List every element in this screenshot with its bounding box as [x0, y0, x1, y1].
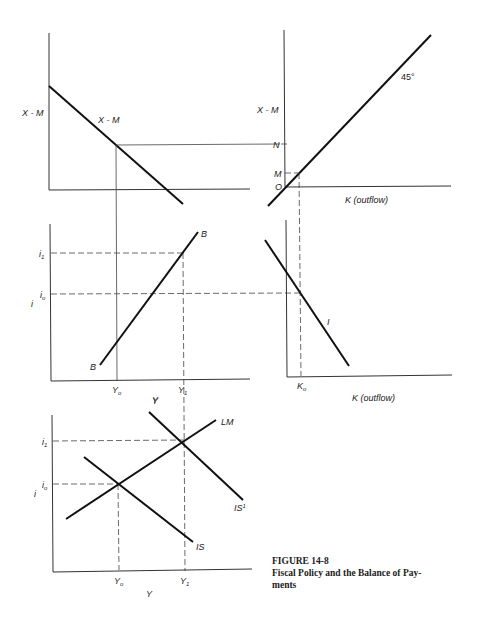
panel-trade-balance: X - M X - M: [21, 33, 280, 381]
guide-Y1: [183, 253, 185, 571]
guide-vertical-Yo: [116, 145, 117, 381]
x-axis-label: Y: [146, 589, 153, 599]
x-axis: [53, 569, 252, 572]
x-axis: [51, 379, 250, 381]
x-axis: [285, 186, 451, 187]
top-y-label: Y: [152, 395, 159, 405]
y-axis: [52, 415, 53, 572]
y-axis-label: X - M: [21, 108, 44, 118]
x-axis-label: K (outflow): [352, 393, 395, 403]
x-axis-label: K (outflow): [345, 195, 388, 205]
y-axis: [50, 224, 51, 381]
tick-Y1-label: Y1: [180, 576, 189, 587]
figure-title-continued: ments: [272, 579, 472, 591]
tick-M-label: M: [274, 169, 282, 179]
forty-five-degree-line: [268, 35, 431, 206]
is-label: IS: [196, 542, 205, 552]
capital-flow-curve: [265, 240, 349, 366]
guide-Yo: [118, 484, 119, 570]
curve-label-top: B: [201, 229, 207, 239]
figure-title: Fiscal Policy and the Balance of Pay-: [272, 567, 472, 579]
guide-Ko-vertical: [299, 173, 301, 376]
is-curve: [84, 457, 193, 542]
fiscal-policy-diagram: X - M X - M 45° X - M N M O K (outflow) …: [0, 0, 478, 620]
tick-Yo-label: Yo: [112, 385, 122, 396]
angle-label: 45°: [401, 72, 415, 82]
curve-label-bottom: B: [90, 362, 96, 372]
lm-curve: [66, 420, 216, 519]
guide-horizontal-to-N: [116, 144, 280, 145]
y-axis-label: i: [31, 299, 34, 309]
tick-i1-label: i1: [39, 249, 44, 260]
tick-io-label: io: [42, 480, 48, 491]
y-axis: [286, 220, 287, 377]
guide-io: [51, 293, 300, 294]
panel-capital-flow: I Ko K (outflow): [265, 220, 452, 403]
x-axis: [49, 189, 250, 190]
is1-label: IS1: [234, 503, 246, 513]
x-axis-label-text: K (outflow): [345, 195, 388, 205]
origin-label: O: [275, 182, 282, 192]
tick-io-label: io: [40, 290, 46, 301]
tick-N-label: N: [273, 140, 280, 150]
y-axis-label: i: [34, 489, 37, 499]
guide-i1: [53, 440, 185, 441]
panel-forty-five-degree: 45° X - M N M O K (outflow): [256, 30, 451, 376]
lm-label: LM: [221, 417, 234, 427]
tick-Ko-label: Ko: [297, 381, 307, 392]
tick-Yo-label: Yo: [114, 576, 124, 587]
panel-bp-curve: B B i1 io i Yo Y1 Y: [31, 224, 300, 571]
tick-i1-label: i1: [42, 437, 47, 448]
x-axis: [287, 375, 452, 377]
figure-number: FIGURE 14-8: [272, 555, 472, 567]
curve-label: I: [327, 317, 330, 327]
curve-label: X - M: [97, 115, 120, 125]
y-axis: [284, 30, 285, 187]
figure-caption: FIGURE 14-8 Fiscal Policy and the Balanc…: [272, 555, 472, 591]
tick-Y1-label: Y1: [178, 385, 187, 396]
y-axis-label: X - M: [256, 105, 279, 115]
panel-is-lm: Y LM IS IS1 i1 io i Yo Y1 Y: [34, 395, 252, 599]
